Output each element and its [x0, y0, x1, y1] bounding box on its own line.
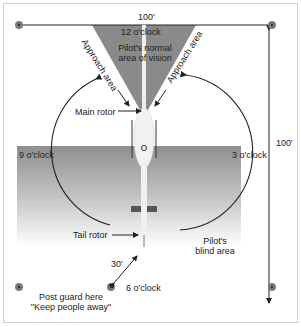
vision-label: Pilot's normal area of vision	[118, 43, 172, 63]
guard-label: Post guard here "Keep people away"	[26, 292, 116, 312]
right-distance-label: 100'	[276, 138, 293, 148]
vision-line-1: Pilot's normal	[118, 43, 172, 53]
top-distance-label: 100'	[138, 12, 155, 22]
vision-line-2: area of vision	[118, 53, 172, 63]
six-oclock-label: 6 o'clock	[126, 283, 161, 293]
blind-line-1: Pilot's	[190, 236, 240, 246]
guard-line-2: "Keep people away"	[26, 302, 116, 312]
blind-line-2: blind area	[190, 246, 240, 256]
blind-area-label: Pilot's blind area	[190, 236, 240, 256]
nine-oclock-label: 9 o'clock	[19, 150, 54, 160]
guard-distance-label: 30'	[111, 259, 123, 269]
three-oclock-label: 3 o'clock	[232, 150, 267, 160]
tail-rotor-label: Tail rotor	[73, 230, 108, 240]
guard-line-1: Post guard here	[26, 292, 116, 302]
twelve-oclock-label: 12 o'clock	[121, 27, 161, 37]
main-rotor-label: Main rotor	[75, 107, 116, 117]
